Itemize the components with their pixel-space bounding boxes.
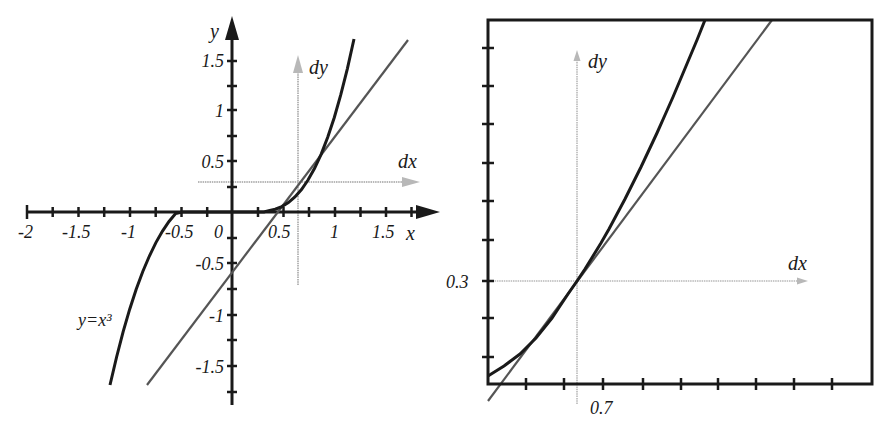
zoom-frame <box>488 20 872 384</box>
dx-arrowhead-icon <box>402 177 420 187</box>
zoom-y-tick-label: 0.3 <box>446 272 469 292</box>
dy-arrow <box>293 55 303 285</box>
x-tick-label: -1.5 <box>62 222 91 242</box>
y-tick-label: -0.5 <box>196 254 225 274</box>
zoom-dx-arrow <box>490 278 808 285</box>
y-tick-labels: 1.5 1 0.5 -0.5 -1 -1.5 <box>196 51 225 377</box>
x-tick-label: 1 <box>330 222 339 242</box>
x-tick-label: -1 <box>121 222 136 242</box>
y-axis-label: y <box>208 20 219 43</box>
right-plot: 0.3 0.7 dx dy <box>446 2 872 418</box>
x-tick-label: -0.5 <box>165 222 194 242</box>
zoom-dy-label: dy <box>588 50 607 73</box>
x-tick-labels: -2 -1.5 -1 -0.5 0 0.5 1 1.5 <box>18 222 395 242</box>
x-tick-label: 0 <box>214 222 223 242</box>
dx-label: dx <box>398 150 417 172</box>
zoom-dy-arrow <box>574 50 581 404</box>
dy-arrowhead-icon <box>293 55 303 73</box>
dy-arrowhead-icon <box>574 50 581 61</box>
x-tick-label: 0.5 <box>268 222 291 242</box>
y-tick-label: -1 <box>209 306 224 326</box>
curve-label: y=x³ <box>76 310 112 330</box>
x-axis-arrowhead-icon <box>416 205 440 219</box>
zoom-x-tick-label: 0.7 <box>590 398 614 418</box>
y-tick-label: 1 <box>215 101 224 121</box>
x-axis-label: x <box>405 222 415 244</box>
dx-arrowhead-icon <box>797 278 808 285</box>
left-plot: x y -2 -1.5 -1 -0.5 0 0.5 1 1.5 1.5 1 0.… <box>18 16 440 405</box>
dy-label: dy <box>309 56 328 79</box>
y-tick-label: 1.5 <box>202 51 225 71</box>
zoom-dx-label: dx <box>788 252 807 274</box>
x-tick-label: 1.5 <box>372 222 395 242</box>
y-tick-label: -1.5 <box>196 357 225 377</box>
x-tick-label: -2 <box>18 222 33 242</box>
y-tick-label: 0.5 <box>202 152 225 172</box>
y-axis-arrowhead-icon <box>225 16 239 40</box>
figure: x y -2 -1.5 -1 -0.5 0 0.5 1 1.5 1.5 1 0.… <box>0 0 884 424</box>
